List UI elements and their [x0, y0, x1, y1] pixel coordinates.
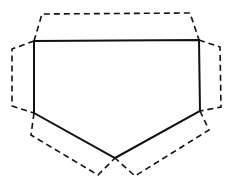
pentagon-net-diagram [0, 0, 233, 188]
top-flap [34, 13, 199, 41]
bottom-left-flap [31, 113, 115, 175]
solid-pentagon [34, 40, 200, 158]
right-flap [199, 40, 221, 111]
bottom-right-flap [115, 111, 209, 176]
diagram-canvas [0, 0, 233, 188]
left-flap [12, 41, 34, 113]
